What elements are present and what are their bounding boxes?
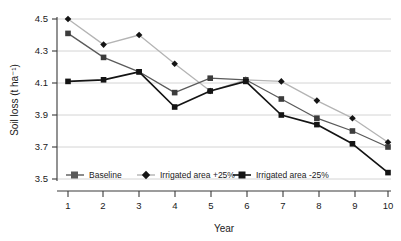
data-point-marker	[65, 79, 71, 85]
legend-label-baseline: Baseline	[89, 170, 122, 180]
x-tick-label-4: 4	[172, 200, 177, 211]
data-point-marker	[207, 88, 213, 94]
chart-legend: Baseline Irrigated area +25% Irrigated a…	[66, 170, 329, 180]
data-point-marker	[314, 115, 320, 121]
x-tick-label-8: 8	[316, 200, 321, 211]
legend-marker-square-baseline	[71, 172, 78, 179]
legend-item-irrigated-plus-25[interactable]: Irrigated area +25%	[137, 170, 235, 180]
y-tick-label-3-7: 3.7	[35, 141, 48, 152]
series-baseline	[65, 31, 391, 150]
data-point-marker	[385, 144, 391, 150]
legend-item-irrigated-minus-25[interactable]: Irrigated area -25%	[233, 170, 329, 180]
x-tick-label-3: 3	[136, 200, 141, 211]
data-point-marker	[278, 78, 285, 85]
series-irrigated-area-25	[65, 16, 392, 146]
legend-item-baseline[interactable]: Baseline	[66, 170, 122, 180]
x-tick-label-5: 5	[208, 200, 213, 211]
x-tick-label-1: 1	[65, 200, 70, 211]
data-point-marker	[314, 122, 320, 128]
data-point-marker	[279, 96, 285, 102]
data-point-marker	[172, 104, 178, 110]
y-tick-label-3-5: 3.5	[35, 173, 48, 184]
series-line	[68, 72, 388, 173]
y-tick-label-3-9: 3.9	[35, 109, 48, 120]
legend-marker-square-irrigated-minus	[239, 172, 246, 179]
legend-marker-diamond-irrigated-plus	[142, 171, 150, 179]
legend-label-irrigated-minus-25: Irrigated area -25%	[256, 170, 329, 180]
data-point-marker	[65, 31, 71, 37]
x-axis-title: Year	[214, 223, 235, 234]
data-point-marker	[172, 90, 178, 96]
x-tick-label-10: 10	[383, 200, 394, 211]
data-point-marker	[207, 75, 213, 81]
series-line	[68, 19, 388, 142]
data-point-marker	[136, 69, 142, 75]
x-tick-label-6: 6	[244, 200, 249, 211]
y-tick-label-4-5: 4.5	[35, 13, 48, 24]
data-point-marker	[101, 77, 107, 83]
chart-canvas: 4.5 4.3 4.1 3.9 3.7 3.5 Soil loss (t ha⁻…	[0, 0, 401, 241]
x-tick-label-2: 2	[100, 200, 105, 211]
data-point-marker	[243, 79, 249, 85]
y-tick-labels: 4.5 4.3 4.1 3.9 3.7 3.5	[35, 13, 48, 184]
y-axis	[52, 17, 57, 181]
soil-loss-line-chart: 4.5 4.3 4.1 3.9 3.7 3.5 Soil loss (t ha⁻…	[0, 0, 401, 241]
y-tick-label-4-1: 4.1	[35, 77, 48, 88]
series-layer	[65, 16, 392, 176]
legend-label-irrigated-plus-25: Irrigated area +25%	[160, 170, 235, 180]
data-point-marker	[350, 128, 356, 134]
data-point-marker	[385, 170, 391, 176]
x-tick-label-7: 7	[280, 200, 285, 211]
data-point-marker	[314, 97, 321, 104]
series-line	[68, 33, 388, 147]
data-point-marker	[350, 141, 356, 147]
x-axis	[57, 191, 391, 197]
y-tick-label-4-3: 4.3	[35, 45, 48, 56]
y-axis-title: Soil loss (t ha⁻¹)	[9, 64, 20, 136]
x-tick-label-9: 9	[352, 200, 357, 211]
data-point-marker	[101, 55, 107, 61]
data-point-marker	[279, 112, 285, 118]
x-tick-labels: 1 2 3 4 5 6 7 8 9 10	[65, 200, 393, 211]
